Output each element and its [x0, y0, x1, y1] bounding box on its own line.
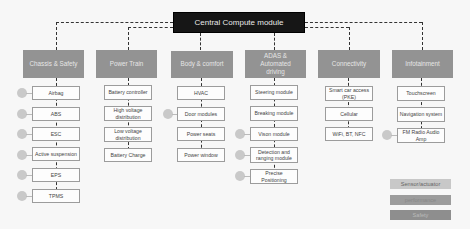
item-label: TPMS [49, 193, 63, 200]
header-connectivity: Connectivity [318, 50, 380, 78]
item-vison-module: Vison module [250, 127, 298, 141]
item-label: Power window [184, 152, 217, 159]
legend-performance: performance [390, 195, 451, 205]
item-battery-controller: Battery controller [104, 85, 152, 100]
item-label: WiFi, BT, NFC [333, 131, 366, 138]
item-abs: ABS [32, 107, 80, 121]
item-label: High voltage distribution [106, 107, 150, 120]
item-navigation-system: Navigation system [397, 107, 445, 122]
item-eps: EPS [32, 168, 80, 182]
item-label: Active suspension [35, 151, 77, 158]
connector-line [56, 22, 173, 23]
item-label: Power seats [187, 131, 216, 138]
item-label: Door modules [185, 111, 217, 118]
item-active-suspension: Active suspension [32, 147, 80, 161]
item-precise-positioning: Precise Positioning [250, 169, 298, 184]
central-label: Central Compute module [195, 18, 284, 27]
item-label: Airbag [49, 90, 64, 97]
legend-label: Safety [413, 212, 429, 218]
item-label: HVAC [194, 90, 208, 97]
item-label: Navigation system [400, 111, 442, 118]
item-fm-radio-audio-amp: FM Radio Audio Amp [397, 128, 445, 143]
header-infotainment: Infotainment [392, 50, 453, 78]
header-chassis-safety: Chassis & Safety [23, 50, 84, 78]
item-label: Battery Charge [111, 152, 146, 159]
item-label: Precise Positioning [252, 170, 296, 183]
connector-line [128, 27, 129, 50]
connector-line [349, 27, 350, 50]
item-battery-charge: Battery Charge [104, 148, 152, 162]
item-label: Battery controller [108, 89, 147, 96]
header-label: ADAS & Automated driving [251, 52, 301, 77]
connector-line [128, 27, 173, 28]
item-tpms: TPMS [32, 189, 80, 203]
legend-label: performance [405, 197, 436, 203]
item-low-voltage-distribution: Low voltage distribution [104, 127, 152, 142]
item-power-window: Power window [177, 148, 225, 162]
header-label: Body & comfort [180, 60, 223, 68]
item-esc: ESC [32, 127, 80, 141]
item-label: Touchscreen [406, 90, 435, 97]
item-label: ABS [51, 111, 61, 118]
connector-line [305, 27, 349, 28]
header-body-comfort: Body & comfort [171, 51, 233, 78]
item-label: Vison module [258, 131, 289, 138]
item-touchscreen: Touchscreen [397, 86, 445, 101]
item-label: Detection and ranging module [252, 149, 296, 162]
item-smart-car-access: Smart car access (PKE) [325, 86, 373, 101]
connector-line [422, 22, 423, 50]
connector-line [56, 22, 57, 50]
item-airbag: Airbag [32, 86, 80, 100]
item-door-modules: Door modules [177, 107, 225, 121]
item-wifi-bt-nfc: WiFi, BT, NFC [325, 127, 373, 141]
item-breaking-module: Breaking module [250, 106, 298, 121]
central-compute-module: Central Compute module [173, 12, 305, 33]
connector-line [200, 33, 201, 50]
item-label: EPS [51, 172, 61, 179]
item-high-voltage-distribution: High voltage distribution [104, 106, 152, 121]
item-detection-ranging-module: Detection and ranging module [250, 147, 298, 163]
item-label: Low voltage distribution [106, 128, 150, 141]
header-power-train: Power Train [96, 50, 157, 78]
legend-sensor-actuator: Sensor/actuator [390, 179, 451, 189]
connector-line [274, 33, 275, 50]
item-steering-module: Steering module [250, 85, 298, 100]
item-power-seats: Power seats [177, 127, 225, 141]
header-label: Chassis & Safety [30, 60, 78, 68]
item-label: Steering module [255, 89, 293, 96]
item-label: ESC [51, 131, 62, 138]
item-label: Cellular [340, 111, 358, 118]
item-cellular: Cellular [325, 107, 373, 121]
header-adas: ADAS & Automated driving [245, 50, 306, 78]
connector-line [305, 22, 422, 23]
header-label: Connectivity [332, 60, 366, 68]
header-label: Infotainment [405, 60, 440, 68]
item-label: Smart car access (PKE) [327, 87, 371, 100]
item-label: Breaking module [255, 110, 294, 117]
legend-label: Sensor/actuator [401, 181, 441, 187]
header-label: Power Train [110, 60, 144, 68]
item-label: FM Radio Audio Amp [399, 129, 443, 142]
legend-safety: Safety [390, 210, 451, 220]
item-hvac: HVAC [177, 86, 225, 100]
